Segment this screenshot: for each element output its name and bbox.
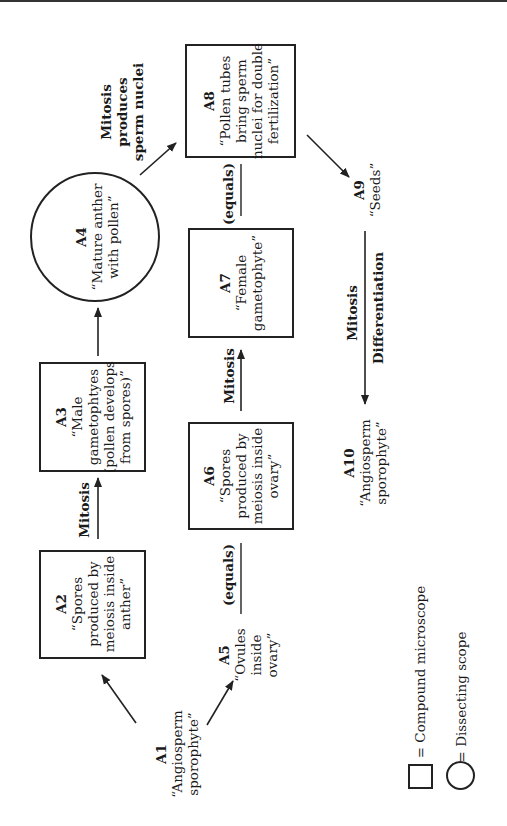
label-differentiation-a9-a10: Differentiation [370, 252, 386, 364]
legend-compound-microscope: = Compound microscope [412, 586, 428, 758]
label-mitosis-produces-sperm: Mitosis produces sperm nuclei [98, 63, 146, 161]
legend-dissecting-scope: = Dissecting scope [453, 632, 469, 763]
node-a1: A1 “Angiosperm sporophyte” [153, 710, 201, 798]
node-a7: A7 “Female gametophyte” [217, 235, 265, 331]
node-a4: A4 “Mature anther with pollen” [73, 184, 121, 291]
label-mitosis-a6-a7: Mitosis [221, 348, 237, 404]
node-a9: A9 “Seeds” [351, 163, 383, 218]
legend-square-icon [408, 764, 433, 789]
label-mitosis-a9-a10: Mitosis [344, 285, 360, 341]
label-mitosis-a2-a3: Mitosis [76, 482, 92, 538]
node-a8: A8 “Pollen tubes bring sperm nuclei for … [201, 43, 281, 159]
legend-circle-icon [446, 761, 475, 790]
node-a10: A10 “Angiosperm sporophyte” [341, 419, 389, 507]
node-a3: A3 “Male gametophtyes (pollen develops f… [53, 361, 133, 473]
label-equals-a7-a8: (equals) [220, 163, 236, 225]
label-equals-a2-a5: (equals) [220, 544, 236, 606]
node-a6: A6 “Spores produced by meiosis inside ov… [201, 428, 281, 525]
node-a2: A2 “Spores produced by meiosis inside an… [53, 556, 133, 653]
node-a5: A5 “Ovules inside ovary” [216, 628, 280, 682]
